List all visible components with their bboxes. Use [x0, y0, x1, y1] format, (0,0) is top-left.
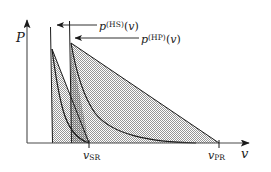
tick-vpr-subscript: PR — [214, 153, 225, 162]
hp-label-var: p — [141, 33, 148, 46]
y-axis-label: P — [16, 31, 25, 44]
x-tick-label-vpr: vPR — [208, 150, 225, 162]
hs-label-argument: (v) — [124, 20, 139, 33]
pressure-distribution-figure: P v vSR vPR p(HS)(v) p(HP)(v) — [0, 0, 271, 172]
hs-curve-label: p(HS)(v) — [99, 21, 139, 32]
x-tick-label-vsr: vSR — [83, 150, 100, 162]
hp-curve-label: p(HP)(v) — [141, 34, 181, 45]
tick-vsr-subscript: SR — [89, 153, 100, 162]
hp-label-argument-var: v — [170, 33, 176, 46]
hs-label-var: p — [99, 20, 106, 33]
hs-label-argument-var: v — [128, 20, 134, 33]
hs-label-superscript: (HS) — [106, 20, 124, 29]
x-axis-label: v — [241, 147, 248, 160]
hp-label-argument: (v) — [166, 33, 181, 46]
hp-label-superscript: (HP) — [148, 33, 166, 42]
